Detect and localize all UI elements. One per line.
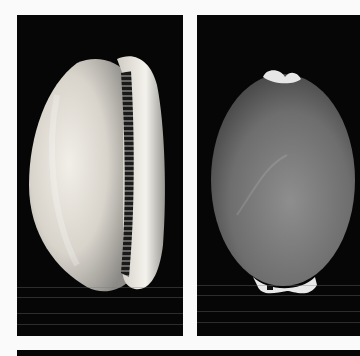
photo-panel-ventral-view: [17, 15, 183, 336]
cowrie-shell-dorsal-illustration: [197, 15, 360, 336]
photo-panel-bottom: [17, 350, 360, 356]
photo-panel-dorsal-view: [197, 15, 360, 336]
